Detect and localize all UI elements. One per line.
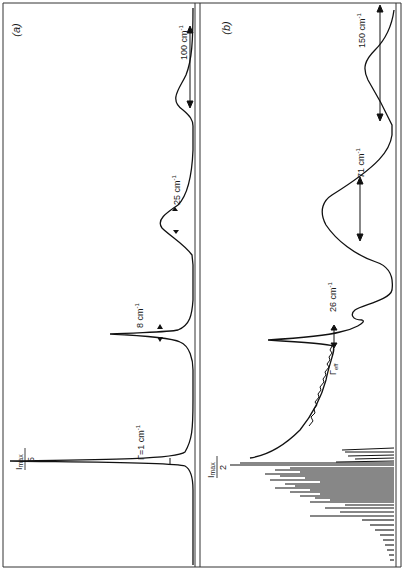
label-gamma-25: 25 cm-1 bbox=[171, 174, 182, 205]
panel-a: (a) Imax 5 Γ=1 cm-1 8 cm-1 25 cm-1 100 c… bbox=[10, 3, 200, 567]
width-marker-g150 bbox=[377, 5, 383, 121]
scale-label-a: Imax 5 bbox=[14, 448, 36, 470]
panel-b: (b) Imax 2 Γeff 26 cm-1 71 cm-1 150 cm-1 bbox=[206, 3, 396, 567]
label-gamma-26: 26 cm-1 bbox=[327, 281, 338, 312]
svg-text:2: 2 bbox=[218, 465, 228, 470]
svg-text:Imax: Imax bbox=[14, 454, 24, 470]
panel-a-tag: (a) bbox=[10, 23, 22, 37]
spectrum-b-ragged-envelope bbox=[309, 346, 332, 426]
width-marker-g8 bbox=[157, 324, 163, 342]
label-gamma-100: 100 cm-1 bbox=[178, 24, 189, 60]
scale-label-b: Imax 2 bbox=[206, 456, 228, 478]
label-gamma-150: 150 cm-1 bbox=[356, 12, 367, 48]
panel-b-tag: (b) bbox=[220, 21, 232, 35]
label-gamma-8: 8 cm-1 bbox=[134, 302, 145, 328]
spectrum-a-curve bbox=[10, 8, 193, 565]
svg-text:5: 5 bbox=[26, 457, 36, 462]
spectrum-b-dense-lines bbox=[230, 448, 394, 560]
svg-text:Imax: Imax bbox=[206, 462, 216, 478]
width-marker-g71 bbox=[357, 177, 363, 241]
spectra-figure: (a) Imax 5 Γ=1 cm-1 8 cm-1 25 cm-1 100 c… bbox=[0, 0, 404, 576]
width-marker-g26 bbox=[331, 325, 337, 348]
label-gamma-1: Γ=1 cm-1 bbox=[135, 424, 146, 460]
spectrum-b-curve bbox=[250, 10, 394, 458]
width-marker-g25 bbox=[172, 207, 179, 234]
label-gamma-71: 71 cm-1 bbox=[355, 147, 366, 178]
